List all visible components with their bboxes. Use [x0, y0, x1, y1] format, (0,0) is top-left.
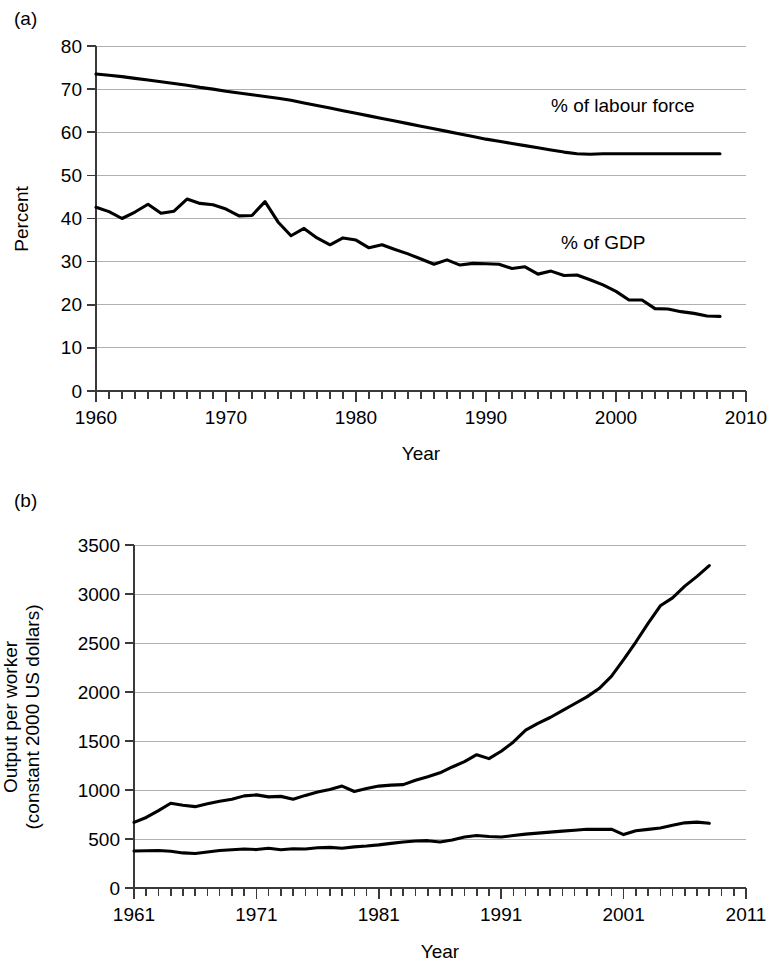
x-tick-label: 2010	[725, 407, 767, 428]
y-tick-label: 10	[61, 337, 82, 358]
y-tick-label: 0	[109, 878, 120, 899]
y-tick-label: 0	[71, 381, 82, 402]
x-tick-label: 1981	[358, 904, 400, 925]
y-tick-label: 3500	[78, 535, 120, 556]
y-tick-label: 20	[61, 294, 82, 315]
y-tick-label: 1000	[78, 780, 120, 801]
x-tick-label: 1991	[480, 904, 522, 925]
y-tick-label: 3000	[78, 584, 120, 605]
series-label-labour-force: % of labour force	[551, 95, 695, 117]
y-tick-label: 80	[61, 36, 82, 57]
data-series-line	[96, 199, 720, 316]
panel-b-y-axis-title-line2: (constant 2000 US dollars)	[22, 604, 44, 829]
y-tick-label: 50	[61, 165, 82, 186]
x-tick-label: 1970	[205, 407, 247, 428]
data-series-line	[134, 566, 709, 823]
y-tick-label: 60	[61, 122, 82, 143]
y-tick-label: 2000	[78, 682, 120, 703]
panel-b-y-axis-title-line1: Output per worker	[0, 604, 22, 829]
panel-a-x-axis-title: Year	[96, 443, 746, 465]
panel-b-y-axis-title: Output per worker (constant 2000 US doll…	[0, 604, 44, 829]
panel-a-plot: 0102030405060708019601970198019902000201…	[0, 0, 782, 470]
y-tick-label: 70	[61, 79, 82, 100]
panel-b-x-axis-title: Year	[134, 941, 746, 962]
series-label-gdp: % of GDP	[561, 232, 645, 254]
y-tick-label: 1500	[78, 731, 120, 752]
panel-b-plot: 0500100015002000250030003500196119711981…	[0, 470, 782, 962]
x-tick-label: 2011	[726, 904, 767, 925]
y-tick-label: 30	[61, 251, 82, 272]
x-tick-label: 2001	[602, 904, 644, 925]
x-tick-label: 1960	[75, 407, 117, 428]
panel-a-y-axis-title: Percent	[11, 186, 33, 251]
x-tick-label: 1961	[113, 904, 155, 925]
y-tick-label: 500	[88, 829, 120, 850]
x-tick-label: 1971	[235, 904, 277, 925]
x-tick-label: 1990	[465, 407, 507, 428]
y-tick-label: 40	[61, 208, 82, 229]
x-tick-label: 2000	[595, 407, 637, 428]
panel-b: (b) 050010001500200025003000350019611971…	[0, 470, 782, 962]
y-tick-label: 2500	[78, 633, 120, 654]
x-tick-label: 1980	[335, 407, 377, 428]
data-series-line	[134, 822, 709, 853]
panel-a: (a) 010203040506070801960197019801990200…	[0, 0, 782, 470]
